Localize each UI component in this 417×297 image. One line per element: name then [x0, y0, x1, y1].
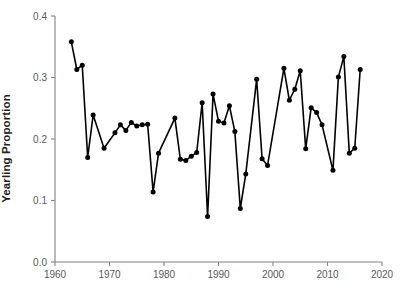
data-point: [140, 122, 145, 127]
data-point: [85, 155, 90, 160]
data-point: [145, 122, 150, 127]
data-point: [178, 157, 183, 162]
data-point: [189, 154, 194, 159]
data-point: [151, 189, 156, 194]
data-point: [227, 103, 232, 108]
data-point: [309, 105, 314, 110]
y-tick-label: 0.2: [33, 134, 47, 145]
y-tick-label: 0.4: [33, 11, 47, 22]
data-point: [287, 98, 292, 103]
data-point: [330, 168, 335, 173]
data-point: [238, 206, 243, 211]
data-point: [102, 146, 107, 151]
data-point: [112, 130, 117, 135]
data-point: [183, 158, 188, 163]
data-point: [314, 110, 319, 115]
chart-figure: Yearling Proportion 0.00.10.20.30.4 1960…: [0, 0, 417, 297]
data-point: [352, 146, 357, 151]
chart-axes: [55, 16, 382, 262]
data-point: [243, 172, 248, 177]
x-axis-ticks: 1960197019801990200020102020: [44, 262, 394, 280]
data-point: [69, 39, 74, 44]
data-point: [118, 122, 123, 127]
data-point: [292, 87, 297, 92]
data-point: [298, 68, 303, 73]
data-point: [216, 119, 221, 124]
data-point: [200, 100, 205, 105]
data-point: [221, 121, 226, 126]
data-point: [281, 66, 286, 71]
data-point: [172, 116, 177, 121]
y-axis-ticks: 0.00.10.20.30.4: [33, 11, 55, 268]
y-tick-label: 0.3: [33, 72, 47, 83]
data-point: [320, 122, 325, 127]
data-point: [254, 77, 259, 82]
data-point: [80, 63, 85, 68]
data-point: [156, 151, 161, 156]
data-point: [194, 150, 199, 155]
data-point: [341, 54, 346, 59]
data-point: [260, 156, 265, 161]
data-point: [129, 120, 134, 125]
data-point: [265, 163, 270, 168]
data-point: [358, 67, 363, 72]
data-point: [211, 92, 216, 97]
y-tick-label: 0.0: [33, 257, 47, 268]
x-tick-label: 1960: [44, 269, 67, 280]
data-point: [347, 151, 352, 156]
x-tick-label: 2000: [262, 269, 285, 280]
y-tick-label: 0.1: [33, 195, 47, 206]
chart-plot-area: 0.00.10.20.30.4 196019701980199020002010…: [0, 0, 417, 297]
data-point: [91, 113, 96, 118]
x-tick-label: 2020: [371, 269, 394, 280]
data-point: [336, 74, 341, 79]
x-tick-label: 1980: [153, 269, 176, 280]
x-tick-label: 1990: [207, 269, 230, 280]
series-markers-yearling-proportion: [69, 39, 363, 219]
data-point: [303, 146, 308, 151]
x-tick-label: 1970: [98, 269, 121, 280]
data-point: [134, 124, 139, 129]
data-point: [123, 128, 128, 133]
series-line-yearling-proportion: [71, 42, 360, 217]
data-point: [205, 214, 210, 219]
data-point: [232, 129, 237, 134]
x-tick-label: 2010: [316, 269, 339, 280]
data-point: [74, 67, 79, 72]
